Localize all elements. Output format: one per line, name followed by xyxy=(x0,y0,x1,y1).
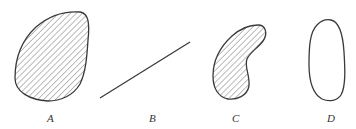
label-b: B xyxy=(149,112,156,124)
shape-a xyxy=(15,12,89,101)
shape-a-region xyxy=(15,12,89,101)
label-a: A xyxy=(46,112,54,124)
shape-b-segment xyxy=(100,42,190,98)
shape-d xyxy=(309,20,345,101)
shape-c xyxy=(213,25,266,99)
shape-c-region xyxy=(213,25,266,99)
figure-canvas: A B C D xyxy=(0,0,356,129)
label-c: C xyxy=(232,112,240,124)
label-d: D xyxy=(326,112,335,124)
shape-d-outline xyxy=(309,20,345,101)
shape-b xyxy=(100,42,190,98)
